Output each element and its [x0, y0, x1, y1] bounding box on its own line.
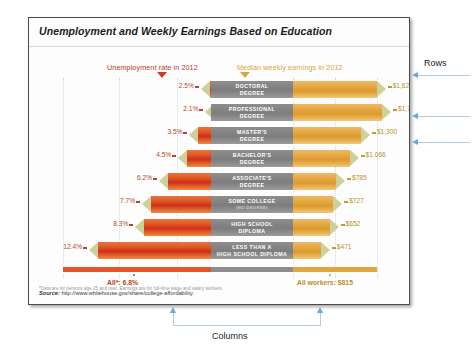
earnings-value-label: $652 [346, 220, 361, 227]
annotation-columns-stem-2 [320, 313, 321, 325]
education-label-line2: DEGREE [240, 182, 265, 189]
earnings-leader-icon [341, 224, 345, 226]
totals-dot-unemployment-icon [133, 274, 135, 276]
annotation-rows-label: Rows [424, 58, 447, 68]
unemployment-leader-icon [172, 155, 176, 157]
education-label-line1: HIGH SCHOOL [231, 221, 273, 228]
annotation-rows-line-1 [418, 75, 470, 76]
unemployment-value-label: 4.5% [156, 151, 171, 158]
unemployment-leader-icon [183, 132, 187, 134]
pencil-tip-icon [382, 104, 391, 120]
earnings-bar [293, 196, 342, 213]
annotation-rows-arrow-3-icon [412, 139, 418, 145]
education-label-line2: HIGH SCHOOL DIPLOMA [217, 251, 287, 258]
table-row: 4.5%BACHELOR'SDEGREE$1,066 [29, 147, 410, 170]
annotation-columns-connector [173, 325, 321, 326]
totals-bar-center [211, 267, 293, 272]
annotation-rows-line-3 [418, 142, 470, 143]
education-level-label: DOCTORALDEGREE [211, 80, 293, 99]
earnings-leader-icon [344, 201, 348, 203]
unemployment-leader-icon [195, 86, 199, 88]
earnings-leader-icon [347, 178, 351, 180]
education-label-line1: PROFESSIONAL [229, 106, 275, 113]
earnings-bar [293, 150, 359, 167]
education-label-line2: DEGREE [240, 113, 265, 120]
annotation-rows-arrow-2-icon [412, 113, 418, 119]
education-level-label: PROFESSIONALDEGREE [211, 103, 293, 122]
unemployment-value-label: 2.5% [179, 82, 194, 89]
unemployment-leader-icon [129, 224, 133, 226]
table-row: 7.7%SOME COLLEGE(NO DEGREE)$727 [29, 193, 410, 216]
education-level-label: SOME COLLEGE(NO DEGREE) [211, 195, 293, 214]
unemployment-value-label: 2.1% [183, 105, 198, 112]
pencil-tip-icon [321, 242, 330, 258]
pencil-tip-icon [377, 81, 386, 97]
chart-rows: 2.5%DOCTORALDEGREE$1,6242.1%PROFESSIONAL… [29, 78, 410, 262]
annotation-columns-label: Columns [212, 331, 248, 341]
annotation-rows-arrow-1-icon [412, 72, 418, 78]
table-row: 2.1%PROFESSIONALDEGREE$1,735 [29, 101, 410, 124]
unemployment-value-label: 8.3% [113, 220, 128, 227]
earnings-bar [293, 127, 370, 144]
pencil-tip-icon [89, 242, 98, 258]
table-row: 8.3%HIGH SCHOOLDIPLOMA$652 [29, 216, 410, 239]
education-level-label: LESS THAN AHIGH SCHOOL DIPLOMA [211, 241, 293, 260]
earnings-value-label: $1,066 [366, 151, 386, 158]
earnings-bar [293, 242, 330, 259]
earnings-leader-icon [393, 109, 397, 111]
education-label-line1: BACHELOR'S [233, 152, 272, 159]
page-title: Unemployment and Weekly Earnings Based o… [39, 25, 332, 37]
earnings-value-label: $785 [352, 174, 367, 181]
earnings-leader-icon [332, 247, 336, 249]
unemployment-leader-icon [153, 178, 157, 180]
education-label-line2: DEGREE [240, 136, 265, 143]
education-label-line2: DEGREE [240, 159, 265, 166]
unemployment-value-label: 6.2% [137, 174, 152, 181]
table-row: 3.5%MASTER'SDEGREE$1,300 [29, 124, 410, 147]
pencil-tip-icon [135, 219, 144, 235]
education-label-line2: DIPLOMA [238, 228, 265, 235]
earnings-value-label: $1,624 [393, 82, 410, 89]
annotation-columns-stem-1 [173, 313, 174, 325]
unemployment-value-label: 7.7% [120, 197, 135, 204]
totals-bar [29, 267, 410, 273]
unemployment-bar [89, 242, 229, 259]
screenshot-canvas: Unemployment and Weekly Earnings Based o… [0, 0, 475, 358]
education-label-line2: DEGREE [240, 90, 265, 97]
earnings-value-label: $1,300 [377, 128, 397, 135]
annotation-rows-line-2 [418, 116, 470, 117]
pencil-tip-icon [333, 196, 342, 212]
table-row: 6.2%ASSOCIATE'SDEGREE$785 [29, 170, 410, 193]
pencil-tip-icon [189, 127, 198, 143]
education-level-label: BACHELOR'SDEGREE [211, 149, 293, 168]
unemployment-leader-icon [136, 201, 140, 203]
total-earnings-label: All workers: $815 [297, 279, 353, 286]
totals-bar-unemployment [63, 267, 211, 272]
totals-bar-earnings [293, 267, 377, 272]
source-label: Source: [39, 290, 60, 296]
pencil-tip-icon [350, 150, 359, 166]
pencil-tip-icon [336, 173, 345, 189]
pencil-tip-icon [201, 81, 210, 97]
totals-dot-earnings-icon [329, 274, 331, 276]
education-level-label: MASTER'SDEGREE [211, 126, 293, 145]
earnings-bar [293, 173, 345, 190]
education-level-label: ASSOCIATE'SDEGREE [211, 172, 293, 191]
education-label-line1: MASTER'S [237, 129, 267, 136]
earnings-value-label: $727 [349, 197, 364, 204]
earnings-bar [293, 104, 391, 121]
education-label-line1: ASSOCIATE'S [232, 175, 272, 182]
education-label-line1: LESS THAN A [232, 244, 271, 251]
earnings-bar [293, 81, 386, 98]
pencil-tip-icon [142, 196, 151, 212]
infographic-frame: Unemployment and Weekly Earnings Based o… [28, 17, 410, 305]
earnings-leader-icon [372, 132, 376, 134]
legend-unemployment: Unemployment rate in 2012 [107, 63, 198, 72]
source-url[interactable]: http://www.whitehouse.gov/share/college-… [61, 290, 194, 296]
unemployment-value-label: 3.5% [167, 128, 182, 135]
education-level-label: HIGH SCHOOLDIPLOMA [211, 218, 293, 237]
table-row: 12.4%LESS THAN AHIGH SCHOOL DIPLOMA$471 [29, 239, 410, 262]
earnings-value-label: $471 [337, 243, 352, 250]
pencil-tip-icon [159, 173, 168, 189]
unemployment-value-label: 12.4% [63, 243, 82, 250]
